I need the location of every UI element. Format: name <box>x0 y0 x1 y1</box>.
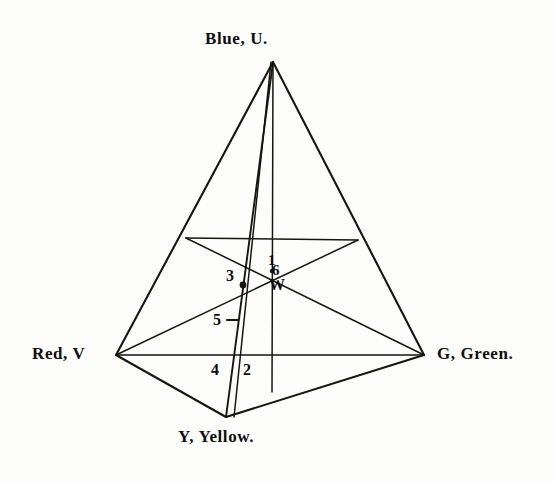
tetrahedron-diagram <box>0 0 556 482</box>
vertex-label-green: G, Green. <box>437 345 513 362</box>
axis-blue-vertical <box>272 62 273 392</box>
median-blue-red-to-blue-green <box>186 238 358 240</box>
point-label-4: 4 <box>211 362 219 378</box>
vertex-label-yellow: Y, Yellow. <box>178 428 254 445</box>
edge-red-yellow <box>116 355 226 417</box>
edge-blue-red <box>116 62 273 355</box>
vertex-label-blue: Blue, U. <box>205 30 268 47</box>
vertex-label-red: Red, V <box>32 345 85 362</box>
edge-blue-green <box>273 62 424 355</box>
line-green-to-blue-red-mid <box>186 238 424 355</box>
point-label-w: W <box>269 277 285 293</box>
point-label-2: 2 <box>243 362 251 378</box>
point-label-3: 3 <box>226 268 234 284</box>
point-label-5: 5 <box>213 312 221 328</box>
edge-yellow-green <box>226 355 424 417</box>
marker-dot-3 <box>240 282 247 289</box>
figure-page: Blue, U. Red, V G, Green. Y, Yellow. 1 6… <box>0 0 556 482</box>
